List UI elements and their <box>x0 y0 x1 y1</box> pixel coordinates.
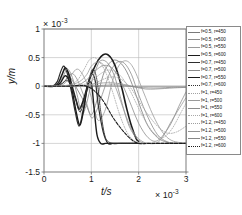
y-tick-label: 0.5 <box>16 53 40 63</box>
legend-line-sample-icon <box>188 52 200 58</box>
legend-item-label: f=1, r=500 <box>201 98 222 103</box>
legend-item-label: f=1.2, r=550 <box>201 136 226 141</box>
y-tick-label: 0 <box>16 81 40 91</box>
legend-line-sample-icon <box>188 97 200 103</box>
figure-root: × 10-3 × 10-3 y/m t/s 10.50-0.5-1-1.5 01… <box>0 0 242 215</box>
legend-item[interactable]: f=1, r=500 <box>187 96 240 104</box>
legend-item-label: f=0.5, r=550 <box>201 44 226 49</box>
legend-line-sample-icon <box>188 128 200 134</box>
legend-item[interactable]: f=0.7, r=450 <box>187 58 240 66</box>
y-tick-label: 1 <box>16 24 40 34</box>
legend-item[interactable]: f=0.7, r=600 <box>187 81 240 89</box>
legend-item[interactable]: f=1.2, r=600 <box>187 142 240 150</box>
legend-item[interactable]: f=1, r=600 <box>187 112 240 120</box>
legend-item[interactable]: f=0.5, r=450 <box>187 28 240 36</box>
x-axis-multiplier: × 10-3 <box>155 188 179 200</box>
legend-line-sample-icon <box>188 112 200 118</box>
y-axis-multiplier: × 10-3 <box>43 17 68 29</box>
series-line <box>44 58 186 144</box>
legend-item-label: f=1, r=600 <box>201 113 222 118</box>
legend-item-label: f=1.2, r=500 <box>201 128 226 133</box>
legend-line-sample-icon <box>188 44 200 50</box>
legend-item[interactable]: f=1.2, r=500 <box>187 127 240 135</box>
legend-line-sample-icon <box>188 105 200 111</box>
legend-item[interactable]: f=1.2, r=450 <box>187 119 240 127</box>
legend-line-sample-icon <box>188 59 200 65</box>
legend-item-label: f=0.7, r=600 <box>201 82 226 87</box>
x-tick-label: 3 <box>179 174 193 184</box>
legend-line-sample-icon <box>188 67 200 73</box>
legend-line-sample-icon <box>188 74 200 80</box>
series-line <box>44 61 186 144</box>
legend-item-label: f=1, r=550 <box>201 105 222 110</box>
legend-item-label: f=0.7, r=550 <box>201 75 226 80</box>
legend-line-sample-icon <box>188 143 200 149</box>
legend-line-sample-icon <box>188 36 200 42</box>
legend-line-sample-icon <box>188 135 200 141</box>
legend-item[interactable]: f=1, r=450 <box>187 89 240 97</box>
legend-item-label: f=0.7, r=450 <box>201 60 226 65</box>
legend-item[interactable]: f=1, r=550 <box>187 104 240 112</box>
legend-item[interactable]: f=0.7, r=500 <box>187 66 240 74</box>
x-axis-label: t/s <box>101 186 112 197</box>
legend-item[interactable]: f=0.5, r=600 <box>187 51 240 59</box>
legend-line-sample-icon <box>188 29 200 35</box>
x-tick-label: 0 <box>37 174 51 184</box>
legend-item-label: f=0.5, r=450 <box>201 29 226 34</box>
chart-legend: f=0.5, r=450f=0.5, r=500f=0.5, r=550f=0.… <box>186 26 241 155</box>
legend-line-sample-icon <box>188 90 200 96</box>
legend-item-label: f=1.2, r=450 <box>201 120 226 125</box>
series-line <box>44 60 186 144</box>
legend-item-label: f=1.2, r=600 <box>201 143 226 148</box>
legend-item-label: f=0.5, r=600 <box>201 52 226 57</box>
legend-item[interactable]: f=0.5, r=550 <box>187 43 240 51</box>
x-tick-label: 2 <box>132 174 146 184</box>
legend-item[interactable]: f=1.2, r=550 <box>187 134 240 142</box>
x-tick-label: 1 <box>84 174 98 184</box>
legend-line-sample-icon <box>188 82 200 88</box>
legend-item-label: f=0.7, r=500 <box>201 67 226 72</box>
legend-item-label: f=0.5, r=500 <box>201 37 226 42</box>
y-tick-label: -0.5 <box>16 110 40 120</box>
y-tick-label: -1 <box>16 138 40 148</box>
legend-item-label: f=1, r=450 <box>201 90 222 95</box>
legend-line-sample-icon <box>188 120 200 126</box>
legend-item[interactable]: f=0.7, r=550 <box>187 74 240 82</box>
legend-item[interactable]: f=0.5, r=500 <box>187 36 240 44</box>
